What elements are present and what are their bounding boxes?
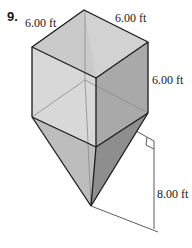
solid-figure bbox=[0, 0, 192, 248]
